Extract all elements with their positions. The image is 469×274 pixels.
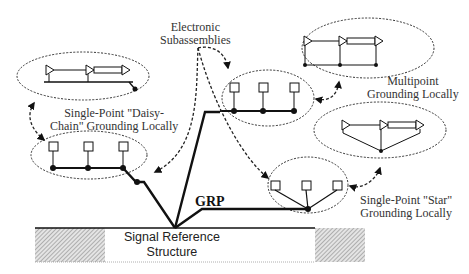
label-daisy-chain: Single-Point "Daisy- Chain" Grounding Lo… xyxy=(50,107,178,133)
daisy-chain-group xyxy=(31,131,147,179)
label-electronic-subassemblies: Electronic Subassemblies xyxy=(160,21,231,47)
label-line: Grounding Locally xyxy=(360,207,452,220)
multipoint-detail xyxy=(302,18,434,78)
label-multipoint: Multipoint Grounding Locally xyxy=(367,75,459,101)
label-signal-reference-structure: Signal Reference Structure xyxy=(124,230,220,260)
star-group xyxy=(268,157,348,213)
label-line: Chain" Grounding Locally xyxy=(50,120,178,133)
label-line: Structure xyxy=(124,245,220,260)
star-detail xyxy=(314,102,446,158)
daisy-chain-detail xyxy=(17,52,149,100)
label-line: Subassemblies xyxy=(160,34,231,47)
label-star: Single-Point "Star" Grounding Locally xyxy=(360,194,452,220)
label-grp: GRP xyxy=(195,195,225,208)
grounding-diagram xyxy=(0,0,469,274)
label-line: Grounding Locally xyxy=(367,88,459,101)
label-line: Signal Reference xyxy=(124,230,220,245)
multipoint-group xyxy=(220,70,314,126)
